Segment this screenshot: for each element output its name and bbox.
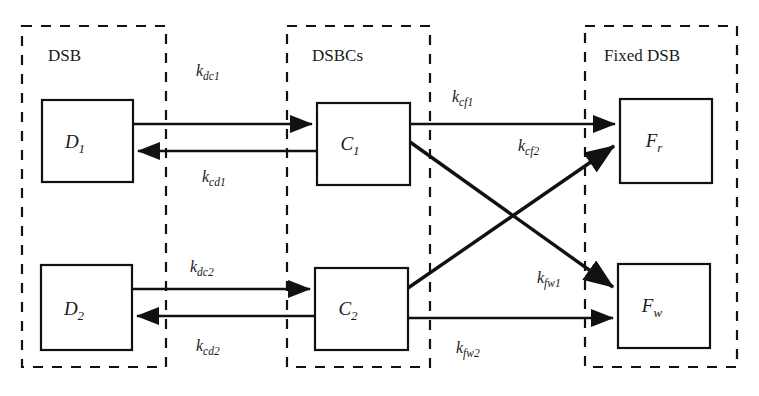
diagram-canvas: DSB DSBCs Fixed DSB	[0, 0, 759, 396]
rate-label-cd1: kcd1	[202, 168, 226, 188]
rate-label-cd2: kcd2	[196, 337, 220, 357]
node-box-d2[interactable]	[41, 265, 132, 350]
rate-label-dc1: kdc1	[196, 62, 220, 82]
node-box-c1[interactable]	[317, 103, 410, 185]
rate-label-cf2: kcf2	[518, 137, 539, 158]
rate-label-fw1: kfw1	[537, 269, 561, 290]
rate-label-dc2: kdc2	[190, 258, 214, 278]
rate-label-cf1: kcf1	[452, 88, 473, 109]
group-label-dsb: DSB	[48, 46, 81, 65]
diagram-svg: DSB DSBCs Fixed DSB	[0, 0, 759, 396]
node-box-d1[interactable]	[42, 100, 133, 182]
node-boxes	[41, 99, 712, 350]
rate-label-fw2: kfw2	[456, 339, 480, 360]
node-box-c2[interactable]	[315, 268, 408, 350]
node-box-fw[interactable]	[618, 264, 710, 348]
group-label-fixed-dsb: Fixed DSB	[604, 46, 680, 65]
node-box-fr[interactable]	[620, 99, 712, 183]
group-label-dsbcs: DSBCs	[312, 46, 363, 65]
